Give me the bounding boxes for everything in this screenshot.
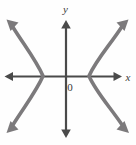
hyperbola-graph-figure: y x 0 (0, 0, 136, 145)
y-axis-bottom-arrowhead (61, 130, 71, 139)
axes-group (5, 20, 123, 138)
x-axis-label: x (125, 71, 131, 83)
origin-label: 0 (67, 81, 73, 93)
x-axis-right-arrowhead (114, 72, 123, 81)
y-axis-top-arrowhead (61, 20, 71, 29)
coordinate-plane-svg: y x 0 (0, 0, 136, 145)
labels-group: y x 0 (62, 3, 131, 93)
x-axis-left-arrowhead (5, 72, 14, 81)
y-axis-label: y (62, 3, 68, 15)
